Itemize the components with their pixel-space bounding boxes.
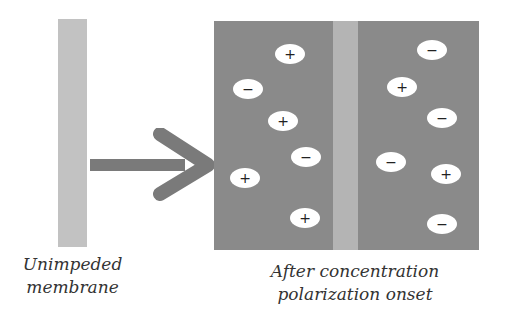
label-line-1: After concentration	[240, 260, 470, 283]
label-line-1: Unimpeded	[10, 253, 135, 276]
negative-ion-icon: −	[233, 79, 263, 99]
positive-ion-icon: +	[431, 164, 461, 184]
negative-ion-icon: −	[376, 152, 406, 172]
label-line-2: polarization onset	[240, 283, 470, 306]
positive-ion-icon: +	[275, 44, 305, 64]
positive-ion-icon: +	[387, 77, 417, 97]
transition-arrow-icon	[90, 128, 215, 204]
unimpeded-membrane-bar	[58, 19, 87, 247]
negative-ion-icon: −	[291, 147, 321, 167]
polarization-onset-label: After concentration polarization onset	[240, 260, 470, 306]
negative-ion-icon: −	[417, 40, 447, 60]
negative-ion-icon: −	[427, 214, 457, 234]
positive-ion-icon: +	[268, 111, 298, 131]
positive-ion-icon: +	[290, 208, 320, 228]
unimpeded-membrane-label: Unimpeded membrane	[10, 253, 135, 299]
negative-ion-icon: −	[427, 108, 457, 128]
positive-ion-icon: +	[230, 168, 260, 188]
polarized-membrane-bar	[333, 21, 358, 250]
label-line-2: membrane	[10, 276, 135, 299]
